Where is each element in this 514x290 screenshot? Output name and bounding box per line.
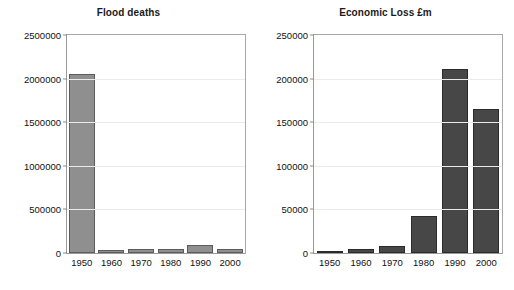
x-axis-tick-label: 1950 (69, 257, 95, 268)
bar (379, 246, 405, 253)
bar-group-left (67, 35, 245, 253)
x-axis-tick-label: 1950 (317, 257, 343, 268)
chart-panel-flood-deaths: Flood deaths 195019601970198019902000 05… (0, 0, 257, 290)
bar (69, 74, 95, 253)
gridline (67, 166, 245, 167)
y-axis-tick-label: 50000 (282, 204, 314, 215)
bar (411, 216, 437, 253)
plot-area-right: 195019601970198019902000 050000100000150… (313, 34, 503, 254)
gridline (314, 209, 502, 210)
gridline (67, 79, 245, 80)
x-axis-tick-label: 1990 (187, 257, 213, 268)
bar-group-right (314, 35, 502, 253)
x-axis-tick-label: 1960 (348, 257, 374, 268)
gridline (67, 209, 245, 210)
y-axis-tick-label: 250000 (276, 30, 314, 41)
gridline (314, 79, 502, 80)
gridline (314, 166, 502, 167)
y-axis-tick-label: 200000 (276, 73, 314, 84)
y-axis-tick-label: 2500000 (24, 30, 67, 41)
y-axis-tick-label: 2000000 (24, 73, 67, 84)
x-axis-labels-left: 195019601970198019902000 (67, 253, 245, 268)
x-axis-tick-label: 1970 (128, 257, 154, 268)
plot-area-left: 195019601970198019902000 050000010000001… (66, 34, 246, 254)
bar (187, 245, 213, 253)
gridline (314, 122, 502, 123)
x-axis-tick-label: 2000 (217, 257, 243, 268)
x-axis-tick-label: 1960 (98, 257, 124, 268)
x-axis-tick-label: 2000 (473, 257, 499, 268)
x-axis-tick-label: 1990 (442, 257, 468, 268)
y-axis-tick-label: 150000 (276, 117, 314, 128)
x-axis-labels-right: 195019601970198019902000 (314, 253, 502, 268)
chart-title-right: Economic Loss £m (257, 7, 514, 18)
x-axis-tick-label: 1970 (379, 257, 405, 268)
x-axis-tick-label: 1980 (411, 257, 437, 268)
y-axis-tick-label: 0 (56, 248, 67, 259)
figure-container: Flood deaths 195019601970198019902000 05… (0, 0, 514, 290)
y-axis-tick-label: 1500000 (24, 117, 67, 128)
chart-title-left: Flood deaths (0, 7, 257, 18)
bar (473, 109, 499, 253)
x-axis-tick-label: 1980 (158, 257, 184, 268)
y-axis-tick-label: 0 (303, 248, 314, 259)
y-axis-tick-label: 1000000 (24, 160, 67, 171)
y-axis-tick-label: 500000 (29, 204, 67, 215)
bar (442, 69, 468, 253)
gridline (67, 122, 245, 123)
y-axis-tick-label: 100000 (276, 160, 314, 171)
chart-panel-economic-loss: Economic Loss £m 19501960197019801990200… (257, 0, 514, 290)
